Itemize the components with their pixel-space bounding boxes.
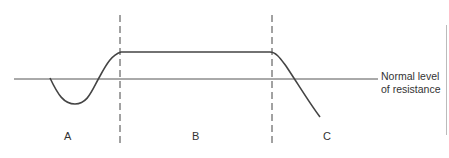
page-edge-divider (446, 25, 447, 135)
baseline-label: Normal level of resistance (381, 70, 441, 96)
baseline-label-line1: Normal level (381, 70, 441, 83)
resistance-curve (50, 52, 320, 117)
phase-label-c: C (323, 130, 331, 142)
phase-label-a: A (64, 130, 71, 142)
baseline-label-line2: of resistance (381, 83, 441, 96)
phase-label-b: B (192, 130, 199, 142)
